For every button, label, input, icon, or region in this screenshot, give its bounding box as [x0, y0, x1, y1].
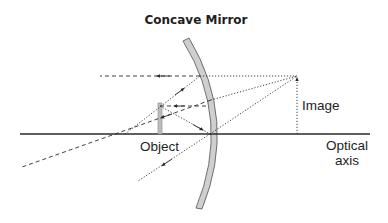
optical-axis-label-line2: axis: [335, 153, 359, 168]
optical-axis-label-line1: Optical: [326, 138, 368, 153]
object-label: Object: [140, 139, 179, 154]
diagram-title: Concave Mirror: [145, 13, 248, 27]
virtual-ray-3: [210, 76, 297, 134]
ray-vertex-in: [160, 106, 210, 134]
ray-through-focus-in: [125, 76, 200, 134]
virtual-ray-2: [211, 76, 297, 100]
concave-mirror-diagram: Concave Mirror Object Image Optica: [0, 0, 388, 223]
concave-mirror: [183, 38, 217, 209]
image-label: Image: [302, 98, 340, 113]
